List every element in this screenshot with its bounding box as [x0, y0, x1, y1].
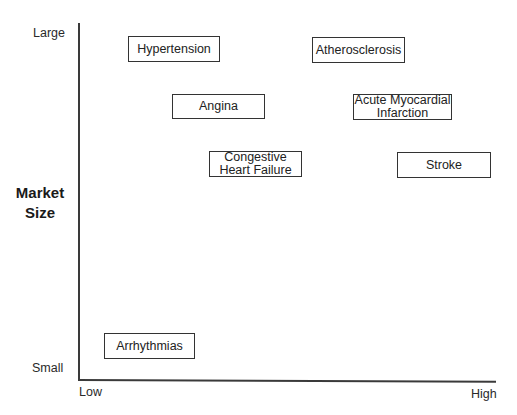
box-label: Stroke [426, 159, 462, 172]
y-axis-line [78, 23, 80, 380]
x-tick-low: Low [79, 385, 102, 399]
box-label: Hypertension [137, 43, 211, 56]
y-axis-title-line2: Size [10, 203, 70, 223]
y-axis-title-line1: Market [10, 183, 70, 203]
box-congestive-heart-failure: Congestive Heart Failure [209, 151, 302, 177]
box-acute-myocardial-infarction: Acute Myocardial Infarction [353, 94, 452, 120]
box-stroke: Stroke [397, 152, 491, 178]
box-angina: Angina [172, 94, 265, 119]
y-tick-large: Large [33, 26, 65, 40]
box-label-line2: Infarction [377, 107, 428, 120]
box-label-line2: Heart Failure [219, 164, 291, 177]
box-label: Angina [199, 100, 238, 113]
box-arrhythmias: Arrhythmias [104, 333, 195, 359]
y-axis-title: Market Size [10, 183, 70, 223]
box-label: Atherosclerosis [316, 44, 401, 57]
box-atherosclerosis: Atherosclerosis [312, 37, 405, 63]
x-axis-line [78, 379, 496, 383]
y-tick-small: Small [32, 361, 63, 375]
box-label: Arrhythmias [116, 340, 183, 353]
x-tick-high: High [471, 387, 497, 401]
box-hypertension: Hypertension [128, 36, 220, 62]
